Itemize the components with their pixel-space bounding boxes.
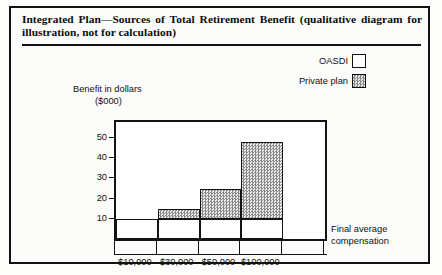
bar-segment-oasdi bbox=[241, 219, 283, 239]
bar-segment-oasdi bbox=[158, 219, 200, 239]
plot-inner: 1020304050 bbox=[116, 122, 325, 239]
x-axis-tick bbox=[239, 241, 240, 255]
legend-item-oasdi: OASDI bbox=[241, 52, 366, 69]
x-axis-label: $50,000 bbox=[198, 257, 240, 267]
bar bbox=[116, 219, 158, 239]
bar-segment-oasdi bbox=[116, 219, 158, 239]
y-axis-tick: 40 bbox=[109, 157, 116, 158]
y-axis-tick: 50 bbox=[109, 137, 116, 138]
y-axis-tick-label: 20 bbox=[97, 193, 107, 203]
y-axis-tick-label: 50 bbox=[97, 132, 107, 142]
legend-swatch-private-plan bbox=[352, 74, 366, 88]
legend-label-private-plan: Private plan bbox=[299, 76, 348, 86]
bar bbox=[158, 209, 200, 239]
x-axis-labels: $10,000$30,000$50,000$100,000 bbox=[114, 257, 327, 271]
figure-title-block: Integrated Plan—Sources of Total Retirem… bbox=[22, 13, 422, 39]
bar bbox=[241, 142, 283, 239]
bar-segment-private-plan bbox=[241, 142, 283, 219]
legend-label-oasdi: OASDI bbox=[319, 56, 348, 66]
bar-segment-private-plan bbox=[158, 209, 200, 219]
y-axis-tick-label: 30 bbox=[97, 172, 107, 182]
chart-legend: OASDI Private plan bbox=[241, 52, 366, 92]
x-axis-title: Final average compensation bbox=[331, 224, 389, 247]
bar bbox=[200, 189, 242, 239]
legend-swatch-oasdi bbox=[352, 54, 366, 68]
figure-page: Integrated Plan—Sources of Total Retirem… bbox=[0, 0, 442, 275]
x-axis-label: $10,000 bbox=[114, 257, 156, 267]
bar-segment-private-plan bbox=[200, 189, 242, 219]
y-axis-title-line1: Benefit in dollars bbox=[73, 84, 142, 94]
x-axis-title-line1: Final average bbox=[331, 224, 389, 236]
x-axis-label: $100,000 bbox=[239, 257, 281, 267]
x-axis-tick bbox=[198, 241, 199, 255]
bar-segment-oasdi bbox=[200, 219, 242, 239]
x-axis-tick bbox=[281, 241, 282, 255]
y-axis-tick: 10 bbox=[109, 218, 116, 219]
x-axis-label: $30,000 bbox=[156, 257, 198, 267]
y-axis-tick: 20 bbox=[109, 198, 116, 199]
y-axis-title-line2: ($000) bbox=[73, 96, 142, 108]
y-axis-tick-label: 40 bbox=[97, 152, 107, 162]
y-axis-tick: 30 bbox=[109, 177, 116, 178]
figure-frame: Integrated Plan—Sources of Total Retirem… bbox=[9, 6, 430, 264]
y-axis-tick-label: 10 bbox=[97, 213, 107, 223]
y-axis-title: Benefit in dollars ($000) bbox=[73, 84, 142, 107]
x-axis-baseline bbox=[114, 254, 327, 255]
figure-title: Integrated Plan—Sources of Total Retirem… bbox=[22, 13, 422, 39]
plot-area: 1020304050 bbox=[114, 120, 327, 241]
legend-item-private-plan: Private plan bbox=[241, 72, 366, 89]
x-axis-title-line2: compensation bbox=[331, 236, 389, 248]
x-axis-tick bbox=[114, 241, 115, 255]
title-divider bbox=[22, 44, 421, 46]
x-axis-tick-row bbox=[114, 241, 327, 255]
x-axis-tick bbox=[323, 241, 324, 255]
x-axis-tick bbox=[156, 241, 157, 255]
